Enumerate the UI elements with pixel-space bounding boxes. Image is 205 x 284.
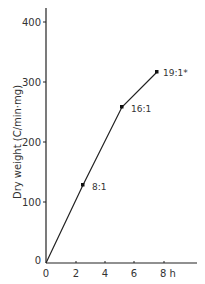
x-tick-4: 4 [102,268,108,279]
y-tick-300: 300 [22,77,41,88]
data-point [155,70,159,74]
data-line: 8:1 16:1 19:1* [46,68,188,263]
point-label: 8:1 [92,182,106,192]
y-axis: 400 300 200 100 0 Dry weight (C/min·mg) [12,8,46,266]
x-tick-8h: 8 h [160,268,176,279]
y-axis-label: Dry weight (C/min·mg) [12,85,23,199]
y-tick-400: 400 [22,17,41,28]
data-point [81,183,85,187]
x-tick-0: 0 [43,268,49,279]
x-axis: 0 2 4 6 8 h [43,261,197,279]
y-tick-100: 100 [22,197,41,208]
x-tick-6: 6 [131,268,137,279]
data-point [120,105,124,109]
point-label: 16:1 [131,104,151,114]
y-tick-200: 200 [22,137,41,148]
point-label: 19:1* [163,68,188,78]
chart: 400 300 200 100 0 Dry weight (C/min·mg) … [0,0,205,284]
y-tick-0: 0 [35,255,41,266]
x-tick-2: 2 [73,268,79,279]
